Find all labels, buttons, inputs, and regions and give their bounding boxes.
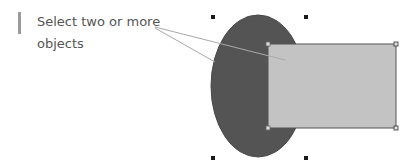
handle-top-left[interactable]: [211, 15, 215, 19]
drawing-canvas: [0, 0, 409, 166]
handle-bottom-right[interactable]: [304, 156, 308, 160]
handle-bottom-left[interactable]: [211, 156, 215, 160]
handle-top-right[interactable]: [304, 15, 308, 19]
rectangle-shape[interactable]: [268, 44, 396, 128]
